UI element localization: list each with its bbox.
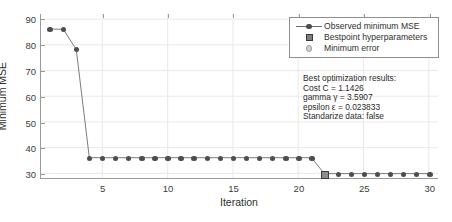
x-tick-label: 30 <box>425 178 436 194</box>
legend-item-label: Minimum error <box>324 43 379 54</box>
y-axis-label: Minimum MSE <box>0 62 8 130</box>
data-point-marker <box>178 156 183 161</box>
y-tick-label: 40 <box>25 143 41 154</box>
legend-item-label: Bestpoint hyperparameters <box>324 32 427 43</box>
data-point-marker <box>165 156 170 161</box>
data-point-marker <box>283 156 288 161</box>
x-tick-label: 15 <box>228 178 239 194</box>
y-tick-label: 30 <box>25 169 41 180</box>
y-tick-label: 60 <box>25 91 41 102</box>
annotation-line: Standarize data: false <box>303 112 396 122</box>
legend-circle-icon <box>294 43 324 54</box>
legend-square-icon <box>294 32 324 43</box>
chart-legend: Observed minimum MSEBestpoint hyperparam… <box>289 17 439 58</box>
data-point-marker <box>139 156 144 161</box>
x-tick-label: 10 <box>163 178 174 194</box>
data-point-marker <box>309 156 314 161</box>
legend-item: Bestpoint hyperparameters <box>294 32 434 43</box>
legend-item-label: Observed minimum MSE <box>324 21 420 32</box>
data-point-marker <box>61 27 66 32</box>
y-tick-label: 50 <box>25 117 41 128</box>
y-tick-label: 80 <box>25 40 41 51</box>
x-tick-label: 20 <box>294 178 305 194</box>
y-tick-label: 70 <box>25 65 41 76</box>
x-axis-label: Iteration <box>220 196 258 208</box>
legend-item: Minimum error <box>294 43 434 54</box>
x-tick-label: 25 <box>359 178 370 194</box>
data-point-marker <box>427 172 432 177</box>
legend-item: Observed minimum MSE <box>294 21 434 32</box>
data-point-marker <box>47 27 52 32</box>
data-point-marker <box>152 156 157 161</box>
y-tick-label: 90 <box>25 14 41 25</box>
optimization-figure: 30405060708090 51015202530 Minimum MSE I… <box>0 0 452 222</box>
data-point-marker <box>296 156 301 161</box>
x-tick-label: 5 <box>100 178 105 194</box>
legend-line-dot-icon <box>294 21 324 32</box>
bestpoint-marker <box>321 171 329 179</box>
optimization-results-annotation: Best optimization results:Cost C = 1.142… <box>303 74 396 122</box>
